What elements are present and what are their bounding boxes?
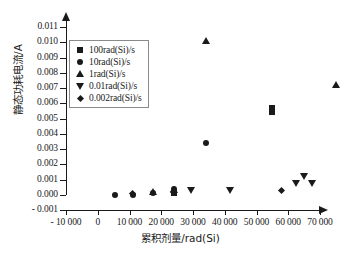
y-tick-label: 0.003 <box>0 144 58 154</box>
y-tick-label: 0.006 <box>0 98 58 108</box>
x-tick <box>288 210 289 215</box>
y-axis-title: 静态功耗电流/A <box>13 10 24 150</box>
x-axis-title: 累积剂量/rad(Si) <box>0 233 361 244</box>
x-tick <box>320 210 321 215</box>
y-tick-label: 0.007 <box>0 83 58 93</box>
data-point <box>203 140 209 146</box>
data-point <box>332 81 340 88</box>
y-tick-label: 0.004 <box>0 129 58 139</box>
y-tick-label: 0.011 <box>0 22 58 32</box>
x-tick <box>193 210 194 215</box>
y-tick-label: 0.010 <box>0 37 58 47</box>
data-point <box>308 180 316 187</box>
y-tick-label: 0.001 <box>0 175 58 185</box>
y-tick-label: 0.008 <box>0 68 58 78</box>
x-tick <box>161 210 162 215</box>
y-tick-label: 0.002 <box>0 159 58 169</box>
chart-figure: - 0.0010.0000.0010.0020.0030.0040.0050.0… <box>0 0 361 256</box>
x-tick <box>225 210 226 215</box>
y-tick-label: 0.000 <box>0 190 58 200</box>
data-point <box>269 109 275 115</box>
x-tick <box>130 210 131 215</box>
y-tick-label: 0.005 <box>0 114 58 124</box>
y-tick-label: 0.009 <box>0 53 58 63</box>
data-point <box>202 37 210 44</box>
data-point <box>149 188 157 195</box>
data-point <box>187 187 195 194</box>
x-tick <box>66 210 67 215</box>
data-point <box>300 173 308 180</box>
data-point <box>112 192 118 198</box>
x-tick-label: 70 000 <box>295 217 345 227</box>
x-tick <box>98 210 99 215</box>
data-point <box>226 187 234 194</box>
x-tick <box>257 210 258 215</box>
plot-area <box>66 20 322 195</box>
y-tick-label: - 0.001 <box>0 205 58 215</box>
data-point <box>292 180 300 187</box>
